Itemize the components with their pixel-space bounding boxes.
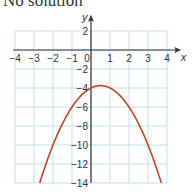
y-tick-label: −10 (71, 140, 88, 151)
x-tick-label: 4 (164, 53, 170, 64)
x-tick-label: 0 (84, 53, 90, 64)
x-axis-label: x (180, 51, 187, 63)
axes (13, 15, 181, 183)
y-axis-label: y (81, 11, 89, 23)
y-tick-label: −6 (77, 102, 89, 113)
parabola-curve (40, 86, 162, 183)
y-tick-label: 2 (82, 26, 88, 37)
x-tick-label: 3 (145, 53, 151, 64)
x-tick-label: 1 (107, 53, 113, 64)
x-tick-label: −1 (66, 53, 78, 64)
x-tick-label: −3 (28, 53, 40, 64)
y-tick-label: −4 (77, 83, 89, 94)
chart: xy−4−3−2−1012342−2−4−6−8−10−12−14 (0, 0, 196, 194)
x-tick-label: −4 (9, 53, 21, 64)
x-tick-label: −2 (47, 53, 59, 64)
y-tick-label: −12 (71, 159, 88, 170)
y-tick-label: −8 (77, 121, 89, 132)
y-tick-label: −14 (71, 178, 88, 189)
y-tick-label: −2 (77, 64, 89, 75)
tick-labels: xy−4−3−2−1012342−2−4−6−8−10−12−14 (9, 11, 186, 189)
x-tick-label: 2 (126, 53, 132, 64)
